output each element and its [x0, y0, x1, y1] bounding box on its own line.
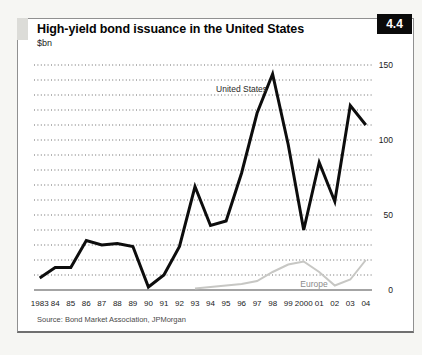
chart-unit-label: $bn [37, 38, 52, 48]
chart-title: High-yield bond issuance in the United S… [37, 22, 304, 36]
x-tick-label: 95 [222, 299, 231, 308]
y-tick-label: 50 [384, 210, 394, 220]
x-tick-label: 84 [51, 299, 60, 308]
x-tick-label: 02 [330, 299, 339, 308]
x-tick-label: 97 [253, 299, 262, 308]
y-tick-label: 0 [388, 285, 393, 295]
y-tick-label: 100 [379, 135, 393, 145]
chart-source: Source: Bond Market Association, JPMorga… [37, 315, 186, 324]
x-tick-label: 04 [361, 299, 370, 308]
series-label-united-states: United States [216, 84, 267, 94]
x-tick-label: 03 [346, 299, 355, 308]
y-tick-label: 150 [379, 60, 393, 70]
series-label-europe: Europe [300, 279, 328, 289]
x-tick-label: 86 [82, 299, 91, 308]
x-tick-label: 90 [144, 299, 153, 308]
figure-panel: 0501001501983848586878889909192939495969… [17, 18, 414, 333]
x-tick-label: 87 [97, 299, 106, 308]
x-tick-label: 01 [315, 299, 324, 308]
x-tick-label: 91 [159, 299, 168, 308]
x-tick-label: 1983 [31, 299, 49, 308]
x-tick-label: 2000 [295, 299, 313, 308]
x-tick-label: 92 [175, 299, 184, 308]
x-tick-label: 99 [284, 299, 293, 308]
x-tick-label: 88 [113, 299, 122, 308]
x-tick-label: 96 [237, 299, 246, 308]
chart-canvas: 0501001501983848586878889909192939495969… [18, 19, 415, 334]
x-tick-label: 93 [191, 299, 200, 308]
x-tick-label: 94 [206, 299, 215, 308]
series-line-united-states [40, 74, 366, 287]
x-tick-label: 89 [128, 299, 137, 308]
x-tick-label: 85 [66, 299, 75, 308]
series-line-europe [195, 260, 366, 289]
figure-number-badge: 4.4 [377, 14, 412, 34]
x-tick-label: 98 [268, 299, 277, 308]
